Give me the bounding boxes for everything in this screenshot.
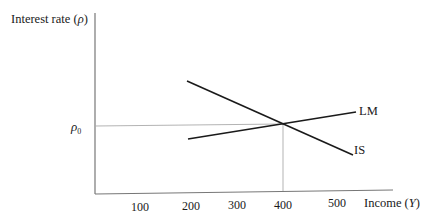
rho0-guide-line (95, 124, 283, 126)
x-tick-400: 400 (274, 198, 292, 212)
lm-label: LM (359, 104, 378, 118)
rho0-label: ρ0 (70, 119, 81, 136)
is-label: IS (354, 143, 365, 157)
x-axis-label: Income (Y) (364, 196, 420, 210)
x-tick-500: 500 (328, 196, 346, 210)
is-lm-chart: Interest rate (ρ) ρ0 LM IS 100 200 300 4… (0, 0, 425, 224)
x-tick-300: 300 (228, 198, 246, 212)
x-tick-100: 100 (131, 200, 149, 214)
is-curve (187, 81, 353, 155)
lm-curve (188, 112, 356, 139)
x-axis (95, 190, 393, 194)
x-tick-200: 200 (182, 199, 200, 213)
y-axis-label: Interest rate (ρ) (11, 12, 88, 26)
